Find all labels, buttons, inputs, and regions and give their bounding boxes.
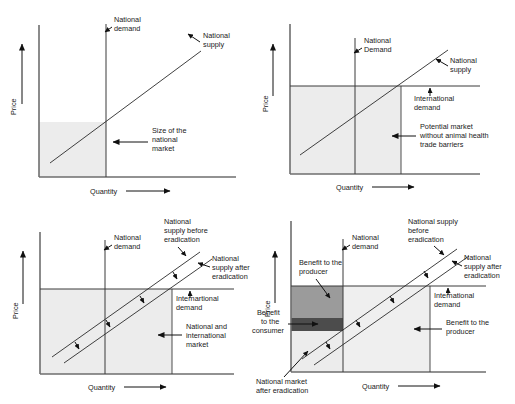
panel-bottom-left: Price Quantity National demand National … <box>0 199 257 401</box>
market-size-label-line3: market <box>152 144 174 153</box>
potential-market-label-line1: Potential market <box>420 122 473 131</box>
quantity-axis-label: Quantity <box>90 187 118 196</box>
price-axis-label: Price <box>261 95 270 112</box>
national-supply-leader <box>436 59 448 66</box>
panel-top-right: Price Quantity National Demand National … <box>258 0 515 202</box>
national-demand-label-line2: Demand <box>364 45 392 54</box>
potential-market-label-line2: without animal health <box>419 131 489 140</box>
supply-after-label-line3: eradication <box>464 271 500 280</box>
national-intl-market-label-line1: National and <box>186 322 227 331</box>
international-demand-label-line1: International <box>414 94 455 103</box>
supply-before-label-line3: eradication <box>164 235 200 244</box>
potential-market-label-line3: trade barriers <box>420 140 464 149</box>
supply-before-leader <box>434 246 444 255</box>
national-supply-leader <box>188 34 200 42</box>
market-size-label-line2: national <box>152 135 178 144</box>
natl-market-after-label-line1: National market <box>256 377 307 386</box>
national-intl-market-label-line2: international <box>186 331 226 340</box>
consumer-benefit-label-line2: to the <box>261 317 279 326</box>
producer-benefit-upper-label-line1: Benefit to the <box>299 258 342 267</box>
national-supply-label-line2: supply <box>203 40 224 49</box>
shift-arrow-4 <box>424 271 428 278</box>
quantity-axis-label: Quantity <box>336 183 364 192</box>
potential-market-area <box>290 86 401 174</box>
producer-benefit-upper-label-line2: producer <box>299 267 328 276</box>
international-demand-label-line2: demand <box>414 103 440 112</box>
panel-bottom-right: Price Quantity National demand National … <box>258 199 515 401</box>
international-demand-label-line1: Internartional <box>176 294 219 303</box>
supply-after-label-line1: National <box>464 253 491 262</box>
national-demand-label-line1: National <box>114 233 141 242</box>
supply-before-label-line3: eradication <box>408 235 444 244</box>
natl-market-after-label-line2: after eradication <box>256 386 308 395</box>
national-demand-label-line2: demand <box>114 24 140 33</box>
international-demand-label-line2: demand <box>176 303 202 312</box>
national-demand-label-line2: demand <box>352 242 378 251</box>
quantity-axis-label: Quantity <box>88 383 116 392</box>
national-demand-label-line1: National <box>352 233 379 242</box>
producer-benefit-right-label-line1: Benefit to the <box>446 318 489 327</box>
producer-benefit-upper <box>291 286 343 318</box>
consumer-benefit-label-line1: Benefit <box>257 308 280 317</box>
national-international-market-area <box>40 289 172 374</box>
national-supply-line <box>50 51 201 163</box>
market-size-label-line1: Size of the <box>152 126 186 135</box>
national-supply-label-line1: National <box>203 31 230 40</box>
national-supply-label-line1: National <box>450 56 477 65</box>
producer-benefit-right-label-line2: producer <box>446 327 475 336</box>
supply-after-label-line3: eradication <box>212 272 248 281</box>
international-demand-label-line1: International <box>434 291 475 300</box>
national-market-area <box>39 122 106 177</box>
supply-before-label-line1: National <box>164 217 191 226</box>
national-market-after-eradication <box>291 331 343 372</box>
supply-before-label-line2: before <box>408 226 429 235</box>
supply-before-leader <box>178 247 186 256</box>
supply-after-label-line2: supply after <box>212 263 250 272</box>
supply-after-label-line1: National <box>212 254 239 263</box>
price-axis-label: Price <box>11 302 20 319</box>
supply-before-label-line2: supply before <box>164 226 208 235</box>
national-intl-market-label-line3: market <box>186 340 208 349</box>
national-demand-label-line1: National <box>364 36 391 45</box>
shift-arrow-4 <box>173 272 177 279</box>
national-demand-label-line1: National <box>114 15 141 24</box>
national-supply-label-line2: supply <box>450 65 471 74</box>
price-axis-label: Price <box>9 98 18 115</box>
supply-after-label-line2: supply after <box>464 262 502 271</box>
international-demand-label-line2: demand <box>434 300 460 309</box>
figure-container: Price Quantity National demand National … <box>0 0 515 404</box>
supply-after-leader <box>198 263 210 267</box>
panel-top-left: Price Quantity National demand National … <box>0 0 257 202</box>
quantity-axis-label: Quantity <box>362 382 390 391</box>
supply-before-label-line1: National supply <box>408 217 458 226</box>
national-demand-label-line2: demand <box>114 242 140 251</box>
consumer-benefit-label-line3: consumer <box>252 326 285 335</box>
